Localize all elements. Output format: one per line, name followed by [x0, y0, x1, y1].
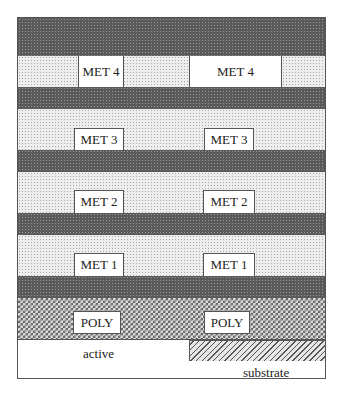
met2-box-right: MET 2 — [203, 190, 255, 213]
met3-box-right: MET 3 — [204, 128, 254, 150]
met2-box-left: MET 2 — [74, 190, 124, 213]
dielectric-layer-top — [18, 18, 325, 56]
dielectric-layer-3 — [18, 150, 325, 172]
met1-layer — [18, 235, 325, 276]
dielectric-layer-2 — [18, 213, 325, 235]
met3-layer — [18, 109, 325, 150]
poly-layer — [18, 298, 325, 339]
cross-section-diagram: MET 4 MET 4 MET 3 MET 3 MET 2 MET 2 MET … — [17, 17, 326, 379]
dielectric-layer-4 — [18, 87, 325, 109]
dielectric-layer-1 — [18, 276, 325, 298]
substrate-hatched-region — [189, 340, 326, 361]
poly-box-right: POLY — [204, 311, 250, 334]
met2-layer — [18, 172, 325, 213]
poly-box-left: POLY — [73, 311, 121, 334]
met4-box-right: MET 4 — [189, 56, 282, 87]
met4-box-left: MET 4 — [78, 56, 124, 87]
met1-box-left: MET 1 — [74, 253, 124, 276]
met3-box-left: MET 3 — [74, 128, 124, 150]
active-label: active — [83, 346, 114, 362]
substrate-label: substrate — [243, 365, 289, 379]
met1-box-right: MET 1 — [203, 253, 255, 276]
